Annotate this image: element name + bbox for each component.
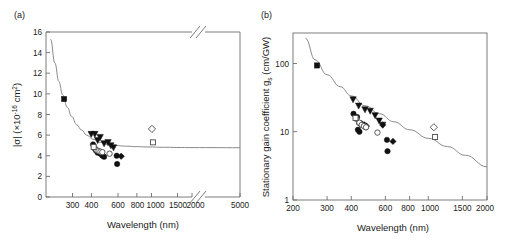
y-tick-8: 8 [37, 111, 42, 120]
panel-a-ylabel-close: ) [11, 83, 22, 86]
x-tick-1500: 1500 [169, 201, 188, 210]
data-point-open-square [150, 140, 155, 145]
data-point-filled-circle [385, 148, 390, 153]
panel-a-ylabel-tail: cm [11, 90, 22, 105]
panel-a-ylabel: |σ| (×10-16 cm2) [11, 83, 22, 147]
panel-a-y-ticks [46, 32, 50, 197]
x-tick-400: 400 [344, 204, 358, 213]
y-tick-4: 4 [37, 152, 42, 161]
data-point-open-circle [100, 149, 105, 154]
y-tick-10: 10 [280, 128, 290, 137]
y-tick-14: 14 [33, 49, 43, 58]
y-tick-12: 12 [33, 69, 43, 78]
panel-a-x-ticks [73, 193, 241, 197]
data-point-open-circle [363, 125, 368, 130]
svg-text:|σ| (×10-16 cm2): |σ| (×10-16 cm2) [11, 83, 22, 147]
x-tick-1500: 1500 [453, 204, 472, 213]
panel-b-ylabel-main: Stationary gain coefficient g [260, 81, 271, 198]
x-tick-1000: 1000 [421, 204, 440, 213]
figure-container: (a) [0, 0, 507, 247]
x-tick-600: 600 [111, 201, 125, 210]
panel-b-x-ticks [293, 196, 487, 200]
x-tick-300: 300 [66, 201, 80, 210]
y-tick-16: 16 [33, 28, 43, 37]
data-point-filled-circle [357, 129, 362, 134]
panel-a-ylabel-exponent: -16 [11, 105, 18, 115]
panel-b-y-ticks [293, 64, 297, 201]
panel-b-fit-curve [306, 38, 488, 167]
panel-a: (a) [0, 0, 253, 247]
data-point-filled-triangle-down [355, 103, 361, 109]
data-point-filled-square [61, 96, 66, 101]
panel-a-label: (a) [14, 10, 25, 20]
data-point-filled-triangle-down [350, 97, 356, 103]
y-tick-0: 0 [37, 193, 42, 202]
panel-b-plot: (b) 1 10 100 [253, 0, 507, 247]
x-tick-300: 300 [320, 204, 334, 213]
x-tick-1000: 1000 [146, 201, 165, 210]
panel-a-axis-break-icon [190, 26, 206, 203]
y-tick-2: 2 [37, 172, 42, 181]
data-point-open-diamond [430, 124, 437, 131]
panel-a-ylabel-main: |σ| (×10 [11, 114, 22, 147]
data-point-open-circle [107, 151, 112, 156]
y-tick-6: 6 [37, 131, 42, 140]
data-point-open-square [353, 115, 358, 120]
panel-b: (b) 1 10 100 [253, 0, 506, 247]
x-tick-800: 800 [131, 201, 145, 210]
panel-a-xlabel: Wavelength (nm) [107, 219, 179, 230]
panel-a-x-tick-labels: 300 400 600 800 1000 1500 2000 5000 [66, 201, 250, 210]
data-point-filled-circle [384, 137, 389, 142]
data-point-open-square [433, 134, 438, 139]
panel-b-y-tick-labels: 1 10 100 [275, 60, 289, 206]
panel-b-label: (b) [261, 10, 272, 20]
x-tick-200: 200 [286, 204, 300, 213]
x-tick-2000: 2000 [186, 201, 205, 210]
data-point-filled-square [314, 63, 319, 68]
y-tick-10: 10 [33, 90, 43, 99]
x-tick-5000: 5000 [231, 201, 250, 210]
data-point-filled-triangle-down [362, 107, 368, 113]
data-point-filled-circle [114, 161, 119, 166]
data-point-open-diamond [148, 125, 155, 132]
panel-a-plot: (a) [0, 0, 253, 247]
panel-a-fit-curve [51, 39, 240, 147]
panel-b-xlabel: Wavelength (nm) [357, 222, 429, 233]
y-tick-100: 100 [275, 60, 289, 69]
panel-b-ylabel: Stationary gain coefficient gs (cm/GW) [260, 37, 273, 197]
x-tick-400: 400 [85, 201, 99, 210]
panel-b-ylabel-tail: (cm/GW) [260, 37, 271, 78]
panel-a-y-tick-labels: 16 14 12 10 8 6 4 2 0 [33, 28, 43, 202]
svg-text:Stationary gain coefficient gs: Stationary gain coefficient gs (cm/GW) [260, 37, 273, 197]
panel-b-x-tick-labels: 200 300 400 600 800 1000 1500 2000 [286, 204, 494, 213]
data-point-open-square [91, 144, 96, 149]
x-tick-600: 600 [379, 204, 393, 213]
panel-a-axes-frame [46, 32, 240, 197]
panel-b-data-markers [314, 63, 437, 154]
data-point-filled-diamond [390, 138, 396, 144]
panel-a-data-markers [61, 96, 155, 166]
panel-b-axes-frame [293, 33, 487, 200]
x-tick-800: 800 [401, 204, 415, 213]
x-tick-2000: 2000 [476, 204, 495, 213]
data-point-open-circle [375, 130, 380, 135]
